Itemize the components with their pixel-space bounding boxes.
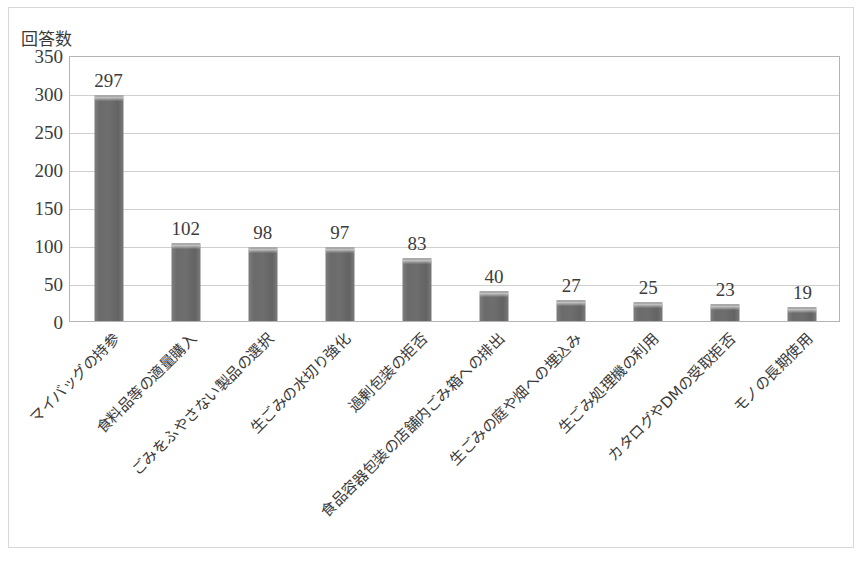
bar[interactable] xyxy=(402,258,431,321)
y-tick-label: 150 xyxy=(15,199,63,218)
bar[interactable] xyxy=(94,95,123,321)
y-tick-label: 300 xyxy=(15,85,63,104)
bar[interactable] xyxy=(325,247,354,321)
bar[interactable] xyxy=(248,247,277,321)
bar-slot: 19 xyxy=(764,57,841,321)
bar-slot: 97 xyxy=(301,57,378,321)
bar-value-label: 97 xyxy=(330,223,349,242)
y-tick-label: 50 xyxy=(15,275,63,294)
bar-value-label: 23 xyxy=(716,280,735,299)
y-tick-label: 250 xyxy=(15,123,63,142)
bar[interactable] xyxy=(557,300,586,321)
bar[interactable] xyxy=(788,307,817,321)
bar-slot: 297 xyxy=(70,57,147,321)
bar-value-label: 297 xyxy=(94,71,123,90)
bar-slot: 40 xyxy=(456,57,533,321)
bar-slot: 27 xyxy=(533,57,610,321)
bar[interactable] xyxy=(634,302,663,321)
x-axis-tick-labels: マイバッグの持参食料品等の適量購入ごみをふやさない製品の選択生ごみの水切り強化過… xyxy=(69,322,840,542)
x-label-slot: カタログやDMの受取拒否 xyxy=(686,322,763,542)
y-tick-label: 100 xyxy=(15,237,63,256)
x-label-slot: モノの長期使用 xyxy=(763,322,840,542)
y-tick-label: 0 xyxy=(15,313,63,332)
y-axis-tick-labels: 350300250200150100500 xyxy=(9,56,63,322)
bar-value-label: 83 xyxy=(407,234,426,253)
chart-figure: 回答数 350300250200150100500 29710298978340… xyxy=(8,7,854,548)
bar-value-label: 40 xyxy=(485,267,504,286)
bar-value-label: 102 xyxy=(171,219,200,238)
bar-value-label: 19 xyxy=(793,283,812,302)
bar-slot: 25 xyxy=(610,57,687,321)
bar[interactable] xyxy=(171,243,200,321)
bar-slot: 102 xyxy=(147,57,224,321)
y-tick-label: 200 xyxy=(15,161,63,180)
bar-value-label: 27 xyxy=(562,276,581,295)
bar-slot: 23 xyxy=(687,57,764,321)
plot-area: 2971029897834027252319 xyxy=(69,56,840,322)
bar-slot: 83 xyxy=(378,57,455,321)
bar[interactable] xyxy=(480,291,509,321)
bar-slot: 98 xyxy=(224,57,301,321)
bar[interactable] xyxy=(711,304,740,321)
bar-value-label: 98 xyxy=(253,223,272,242)
bar-value-label: 25 xyxy=(639,278,658,297)
y-tick-label: 350 xyxy=(15,47,63,66)
